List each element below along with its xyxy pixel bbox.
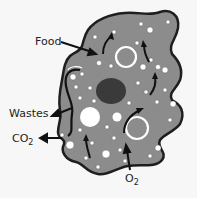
- label-food: Food: [35, 36, 61, 47]
- label-o2-subscript: 2: [134, 178, 139, 187]
- label-co2-subscript: 2: [28, 138, 33, 147]
- label-co2-text: CO: [12, 132, 28, 145]
- label-o2: O2: [125, 173, 139, 187]
- food-vacuole-bottom: [126, 117, 148, 139]
- vacuole-small: [113, 113, 122, 122]
- contractile-vacuole: [80, 107, 100, 127]
- food-vacuole-top: [116, 47, 136, 67]
- label-wastes: Wastes: [9, 108, 48, 119]
- label-co2: CO2: [12, 133, 33, 147]
- nucleus: [96, 78, 126, 104]
- label-o2-text: O: [125, 172, 134, 185]
- amoeba-diagram: [0, 0, 197, 198]
